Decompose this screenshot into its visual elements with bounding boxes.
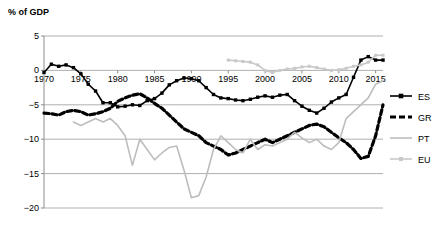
series-marker-ES bbox=[322, 107, 325, 110]
x-tick-label-2000: 2000 bbox=[255, 74, 275, 84]
x-tick-label-2010: 2010 bbox=[329, 74, 349, 84]
series-marker-ES bbox=[212, 93, 215, 96]
series-ES bbox=[42, 55, 384, 115]
x-tick-label-1980: 1980 bbox=[108, 74, 128, 84]
series-marker-ES bbox=[190, 77, 193, 80]
series-marker-ES bbox=[160, 91, 163, 94]
series-marker-ES bbox=[101, 101, 104, 104]
legend-label-PT: PT bbox=[418, 134, 430, 144]
series-marker-ES bbox=[293, 99, 296, 102]
series-marker-ES bbox=[278, 93, 281, 96]
series-marker-EU bbox=[337, 68, 340, 71]
series-marker-EU bbox=[367, 61, 370, 64]
series-marker-EU bbox=[271, 71, 274, 74]
series-marker-ES bbox=[131, 103, 134, 106]
series-marker-ES bbox=[337, 96, 340, 99]
series-marker-EU bbox=[249, 61, 252, 64]
series-marker-ES bbox=[123, 104, 126, 107]
y-axis-tick-labels: 50−5−10−15−20 bbox=[24, 31, 44, 213]
y-tick-label--5: −5 bbox=[29, 100, 39, 110]
series-marker-EU bbox=[345, 67, 348, 70]
series-marker-ES bbox=[344, 93, 347, 96]
legend-label-EU: EU bbox=[418, 155, 431, 165]
legend-item-GR[interactable]: GR bbox=[390, 113, 432, 123]
series-marker-ES bbox=[204, 86, 207, 89]
series-marker-EU bbox=[300, 65, 303, 68]
series-marker-ES bbox=[352, 76, 355, 79]
chart-title: % of GDP bbox=[8, 7, 49, 17]
series-marker-ES bbox=[153, 97, 156, 100]
series-marker-ES bbox=[256, 96, 259, 99]
series-marker-ES bbox=[72, 66, 75, 69]
series-marker-ES bbox=[138, 104, 141, 107]
series-marker-ES bbox=[359, 58, 362, 61]
series-marker-ES bbox=[50, 63, 53, 66]
series-marker-ES bbox=[197, 79, 200, 82]
series-marker-ES bbox=[219, 96, 222, 99]
series-marker-EU bbox=[234, 59, 237, 62]
series-marker-ES bbox=[285, 93, 288, 96]
series-marker-ES bbox=[227, 97, 230, 100]
series-marker-ES bbox=[64, 63, 67, 66]
x-tick-label-1995: 1995 bbox=[218, 74, 238, 84]
legend-item-ES[interactable]: ES bbox=[390, 92, 430, 102]
series-marker-ES bbox=[374, 58, 377, 61]
y-tick-label--15: −15 bbox=[24, 169, 39, 179]
legend-marker-EU bbox=[399, 157, 403, 161]
series-marker-ES bbox=[57, 65, 60, 68]
y-tick-label--10: −10 bbox=[24, 134, 39, 144]
x-tick-label-2015: 2015 bbox=[366, 74, 386, 84]
legend-label-GR: GR bbox=[418, 113, 432, 123]
series-marker-ES bbox=[271, 96, 274, 99]
series-marker-EU bbox=[359, 63, 362, 66]
series-marker-ES bbox=[249, 98, 252, 101]
series-marker-ES bbox=[263, 94, 266, 97]
series-marker-ES bbox=[308, 109, 311, 112]
series-marker-ES bbox=[109, 101, 112, 104]
series-marker-EU bbox=[308, 65, 311, 68]
series-EU bbox=[227, 54, 385, 74]
chart-legend: ESGRPTEU bbox=[390, 92, 432, 165]
legend-item-EU[interactable]: EU bbox=[390, 155, 431, 165]
series-marker-ES bbox=[330, 100, 333, 103]
series-marker-EU bbox=[352, 65, 355, 68]
series-marker-EU bbox=[241, 60, 244, 63]
x-tick-label-2005: 2005 bbox=[292, 74, 312, 84]
legend-marker-ES bbox=[399, 94, 404, 99]
series-marker-ES bbox=[300, 104, 303, 107]
series-marker-ES bbox=[241, 99, 244, 102]
series-marker-EU bbox=[315, 66, 318, 69]
series-marker-EU bbox=[330, 69, 333, 72]
legend-item-PT[interactable]: PT bbox=[390, 134, 430, 144]
series-marker-ES bbox=[381, 58, 384, 61]
series-marker-EU bbox=[264, 69, 267, 72]
series-marker-ES bbox=[79, 72, 82, 75]
series-marker-EU bbox=[374, 54, 377, 57]
chart-title-group: % of GDP bbox=[8, 7, 49, 17]
y-tick-label--20: −20 bbox=[24, 203, 39, 213]
y-tick-label-5: 5 bbox=[34, 31, 39, 41]
series-marker-ES bbox=[116, 105, 119, 108]
series-marker-ES bbox=[234, 98, 237, 101]
series-marker-ES bbox=[94, 89, 97, 92]
series-marker-ES bbox=[42, 71, 45, 74]
series-marker-ES bbox=[315, 111, 318, 114]
series-marker-ES bbox=[175, 79, 178, 82]
series-marker-EU bbox=[382, 54, 385, 57]
series-marker-EU bbox=[227, 59, 230, 62]
series-marker-ES bbox=[87, 82, 90, 85]
series-marker-ES bbox=[168, 83, 171, 86]
series-marker-EU bbox=[293, 67, 296, 70]
x-tick-label-1985: 1985 bbox=[145, 74, 165, 84]
legend-label-ES: ES bbox=[418, 92, 430, 102]
series-marker-EU bbox=[256, 63, 259, 66]
line-chart: % of GDP 50−5−10−15−20 19701975198019851… bbox=[0, 0, 448, 238]
series-marker-EU bbox=[286, 68, 289, 71]
series-marker-ES bbox=[182, 76, 185, 79]
chart-container: % of GDP 50−5−10−15−20 19701975198019851… bbox=[0, 0, 448, 238]
gridlines bbox=[44, 36, 383, 208]
series-marker-EU bbox=[278, 69, 281, 72]
series-marker-EU bbox=[323, 68, 326, 71]
series-marker-ES bbox=[367, 55, 370, 58]
